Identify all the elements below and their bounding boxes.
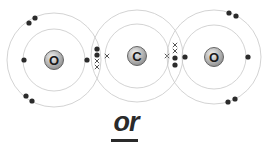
element-symbol: C	[132, 49, 142, 64]
element-symbol: O	[209, 50, 219, 65]
electron-dot	[172, 55, 177, 60]
electron-dot	[182, 54, 187, 59]
electron-dot	[94, 52, 99, 57]
electron-dot	[226, 10, 231, 15]
electron-cross	[95, 65, 99, 69]
or-label: or	[108, 108, 144, 136]
electron-dot	[23, 93, 28, 98]
or-underline	[111, 139, 138, 142]
electron-cross	[173, 49, 177, 53]
electron-dot	[84, 57, 89, 62]
electron-dot	[245, 54, 250, 59]
atom-carbon: C	[91, 10, 183, 102]
electron-dot	[233, 13, 238, 18]
bond-left-shared-electrons	[94, 46, 99, 69]
bond-right-shared-electrons	[172, 43, 177, 68]
electron-cross	[95, 59, 99, 63]
atom-oxygen-left: O	[7, 13, 101, 107]
electron-dot	[21, 57, 26, 62]
electron-dot	[94, 46, 99, 51]
element-symbol: O	[49, 53, 59, 68]
electron-dot	[32, 15, 37, 20]
electron-dot	[232, 96, 237, 101]
electron-cross	[173, 43, 177, 47]
electron-cross	[105, 54, 109, 58]
atom-oxygen-right: O	[167, 10, 261, 105]
electron-dot	[172, 62, 177, 67]
electron-dot	[225, 99, 230, 104]
electron-dot	[26, 20, 31, 25]
electron-dot	[29, 98, 34, 103]
